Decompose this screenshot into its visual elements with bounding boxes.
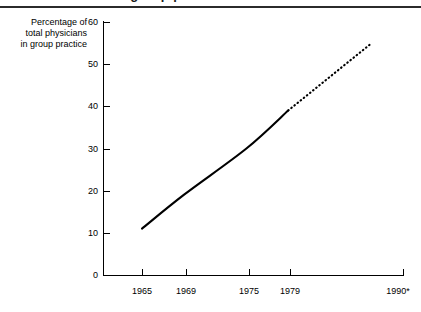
series-line-projected	[288, 43, 372, 110]
series-layer	[0, 0, 421, 312]
series-line-actual	[142, 111, 288, 229]
line-chart: Percentage of total physicians in group …	[0, 0, 421, 312]
